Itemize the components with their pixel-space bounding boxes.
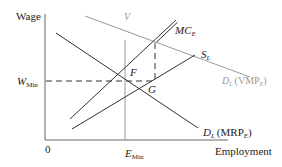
vmp-demand-curve <box>85 16 250 77</box>
mc-curve <box>70 20 176 119</box>
x-axis-label: Employment <box>215 145 272 157</box>
supply-label: SL <box>201 48 211 62</box>
vmp-label: DL(VMPE) <box>221 75 267 87</box>
mrp-label: DL(MRPE) <box>202 126 252 140</box>
origin-label: 0 <box>45 143 51 155</box>
mc-label: MCE <box>174 24 197 38</box>
point-g-label: G <box>148 83 156 95</box>
y-axis-label: Wage <box>16 10 41 22</box>
v-label: V <box>124 11 132 22</box>
point-f-label: F <box>129 66 137 78</box>
labor-market-diagram: Wage WMin V MCE SL DL(VMPE) DL(MRPE) F G… <box>0 0 282 167</box>
diagram-svg: Wage WMin V MCE SL DL(VMPE) DL(MRPE) F G… <box>0 0 282 167</box>
w-min-label: WMin <box>17 75 38 89</box>
e-min-label: EMin <box>124 147 144 161</box>
